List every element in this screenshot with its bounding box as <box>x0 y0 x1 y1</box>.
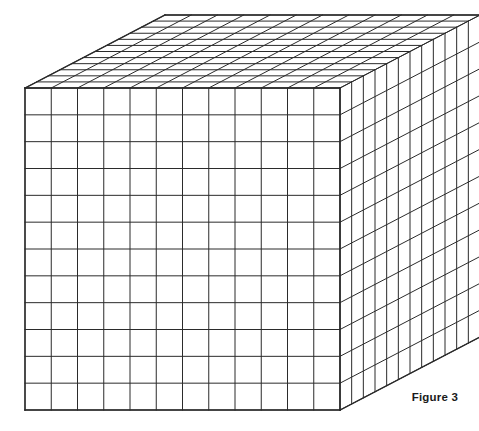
figure-caption: Figure 3 <box>412 391 458 403</box>
figure-container: Figure 3 <box>0 0 479 431</box>
cube-grid-lines <box>25 15 479 410</box>
cube-diagram <box>0 0 479 431</box>
